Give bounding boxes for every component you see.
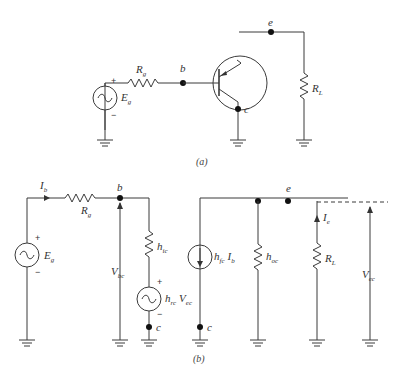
arrow-up-icon — [314, 215, 320, 222]
hrc-vec-label: hrcVec — [165, 292, 193, 307]
arrow-up-icon — [367, 206, 373, 213]
ground-icon — [230, 140, 246, 146]
rg-label: Rg — [80, 204, 92, 219]
resistor-hoc-icon — [254, 201, 262, 340]
vbc-label: Vbc — [111, 265, 125, 280]
ground-icon — [296, 140, 312, 146]
caption-a: (a) — [196, 156, 208, 168]
node-e-label: e — [286, 182, 291, 194]
ground-icon — [141, 340, 157, 346]
eg-label: Eg — [120, 91, 132, 106]
part-a: Rg b e RL — [93, 16, 323, 168]
pnp-transistor-icon — [210, 56, 272, 110]
ground-icon — [362, 340, 378, 346]
rg-label: Rg — [135, 63, 147, 78]
dependent-voltage-source-icon — [137, 287, 161, 311]
hic-label: hic — [157, 240, 168, 255]
ac-source-eg-icon — [15, 243, 39, 267]
node-e-label: e — [268, 16, 273, 28]
rl-label: RL — [324, 252, 336, 267]
part-b: Ib Rg b + − Eg Vbc hic + − hrcVec c — [15, 179, 388, 365]
ground-icon — [192, 340, 208, 346]
ground-icon — [309, 340, 325, 346]
ie-label: Ie — [322, 211, 330, 226]
wire-emitter — [239, 32, 304, 73]
rl-label: RL — [311, 82, 323, 97]
caption-b: (b) — [193, 353, 205, 365]
minus-sign: − — [111, 110, 116, 120]
wire — [27, 198, 65, 238]
dependent-current-source-icon — [188, 245, 212, 269]
ground-icon — [19, 340, 35, 346]
ground-icon — [112, 340, 128, 346]
ib-label: Ib — [39, 179, 48, 194]
node-c-dot — [146, 324, 152, 330]
plus-sign: + — [35, 233, 40, 243]
node-b-dot — [117, 195, 123, 201]
eg-label: Eg — [43, 249, 55, 264]
node-b-label: b — [180, 62, 186, 74]
node-c-label: c — [244, 103, 249, 115]
node-b-label: b — [117, 181, 123, 193]
resistor-rl-icon — [300, 73, 308, 140]
ground-icon — [250, 340, 266, 346]
plus-sign: + — [157, 277, 162, 287]
node-e-dot — [268, 29, 274, 35]
resistor-rg-icon — [128, 79, 183, 87]
node-c2-label: c — [207, 321, 212, 333]
resistor-rg-icon — [65, 194, 149, 205]
vec-label: Vec — [362, 268, 376, 283]
minus-sign: − — [157, 309, 162, 319]
arrow-up-icon — [117, 202, 123, 209]
minus-sign: − — [35, 267, 40, 277]
resistor-hic-icon — [145, 205, 153, 287]
ground-icon — [97, 140, 113, 146]
node-c-dot — [197, 324, 203, 330]
current-arrow-icon — [44, 195, 50, 201]
node-c1-label: c — [156, 321, 161, 333]
wire — [237, 32, 305, 72]
hoc-label: hoc — [266, 250, 279, 265]
plus-sign: + — [111, 76, 116, 86]
hfc-ib-label: hfcIb — [214, 250, 235, 265]
node-c-dot — [235, 106, 241, 112]
circuit-diagram: Rg b e RL — [0, 0, 405, 376]
node-e-dot — [285, 198, 291, 204]
